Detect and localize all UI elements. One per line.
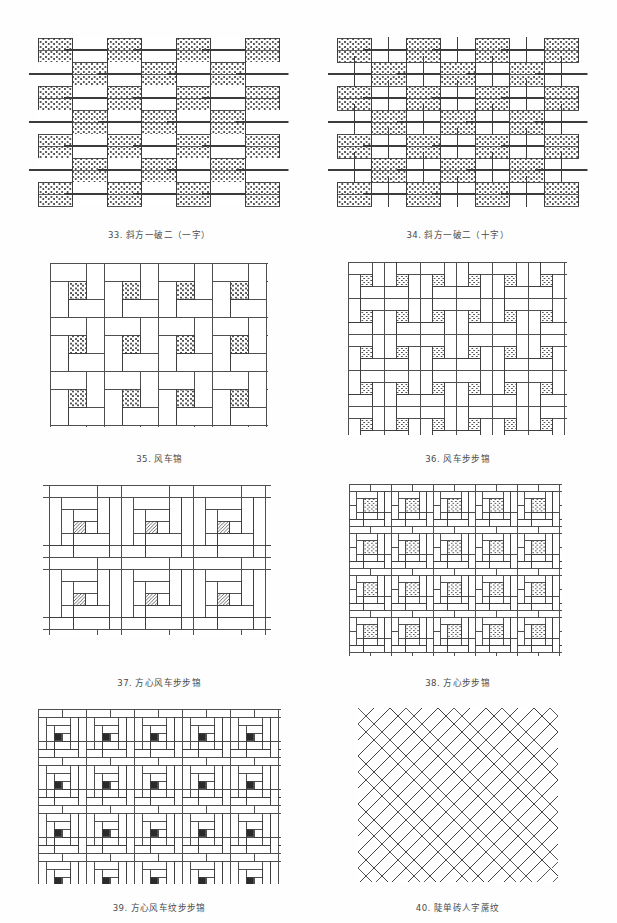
figure-cell-34: 34. 斜方一破二（十字） [309,18,608,242]
figure-caption-38: 38. 方心步步锦 [425,675,490,690]
figure-caption-39: 39. 方心风车纹步步锦 [113,900,206,915]
pattern-drawing-33 [28,30,290,212]
plate-page: 33. 斜方一破二（一字） 34. 斜方一破二（十字） 35. 风车锦 36. … [0,0,617,923]
figure-canvas-33 [10,18,309,224]
figure-cell-36: 36. 风车步步锦 [309,242,608,466]
figure-cell-37: 37. 方心风车步步锦 [10,467,309,691]
figure-caption-40: 40. 陡单砖人字蓆纹 [416,900,500,915]
figure-canvas-36 [309,242,608,451]
pattern-drawing-39 [33,706,285,884]
figure-caption-35: 35. 风车锦 [136,451,182,466]
figure-cell-38: 38. 方心步步锦 [309,467,608,691]
figure-cell-33: 33. 斜方一破二（一字） [10,18,309,242]
figure-grid: 33. 斜方一破二（一字） 34. 斜方一破二（十字） 35. 风车锦 36. … [0,0,617,923]
figure-caption-37: 37. 方心风车步步锦 [117,675,201,690]
figure-canvas-40 [309,691,608,900]
figure-cell-35: 35. 风车锦 [10,242,309,466]
figure-canvas-34 [309,18,608,224]
pattern-drawing-38 [345,481,571,661]
figure-canvas-38 [309,467,608,676]
figure-cell-39: 39. 方心风车纹步步锦 [10,691,309,915]
figure-canvas-35 [10,242,309,451]
figure-caption-33: 33. 斜方一破二（一字） [108,224,211,242]
pattern-drawing-37 [41,481,277,661]
figure-caption-34: 34. 斜方一破二（十字） [406,224,509,242]
figure-canvas-39 [10,691,309,900]
pattern-drawing-34 [327,30,589,212]
pattern-drawing-36 [343,259,573,435]
figure-cell-40: 40. 陡单砖人字蓆纹 [309,691,608,915]
figure-canvas-37 [10,467,309,676]
pattern-drawing-35 [44,259,274,435]
figure-caption-36: 36. 风车步步锦 [425,451,490,466]
pattern-drawing-40 [355,706,561,884]
